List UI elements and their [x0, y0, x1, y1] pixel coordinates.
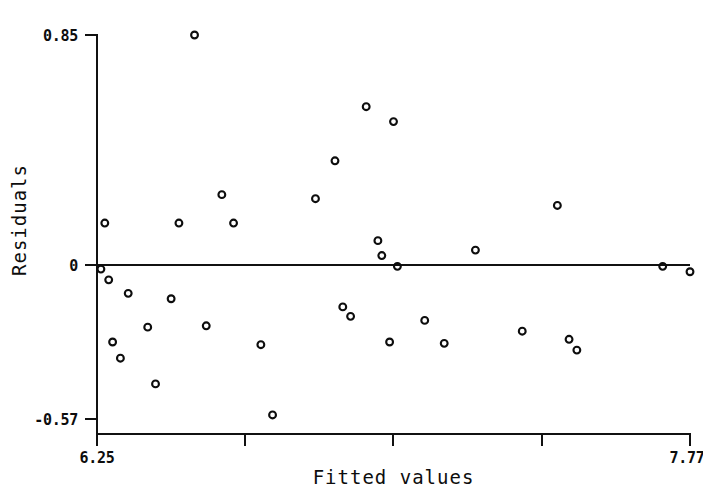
- data-point: [363, 103, 370, 110]
- data-point: [519, 328, 526, 335]
- data-point: [98, 266, 105, 273]
- data-point: [390, 118, 397, 125]
- data-point: [687, 268, 694, 275]
- data-point: [117, 355, 124, 362]
- data-point: [144, 324, 151, 331]
- data-point: [339, 303, 346, 310]
- y-axis-title-text: Residuals: [8, 164, 30, 276]
- data-points-layer: [98, 32, 694, 419]
- data-point: [125, 290, 132, 297]
- data-point: [230, 220, 237, 227]
- data-point: [472, 247, 479, 254]
- data-point: [332, 157, 339, 164]
- data-point: [203, 322, 210, 329]
- x-axis-title: Fitted values: [97, 466, 690, 488]
- data-point: [191, 32, 198, 39]
- data-point: [573, 347, 580, 354]
- x-tick-label-left: 6.25: [80, 449, 115, 467]
- data-point: [257, 341, 264, 348]
- data-point: [659, 263, 666, 270]
- data-point: [566, 336, 573, 343]
- y-tick-label-top: 0.85: [43, 27, 78, 45]
- data-point: [394, 263, 401, 270]
- data-point: [374, 237, 381, 244]
- x-axis-title-text: Fitted values: [313, 466, 475, 488]
- data-point: [105, 276, 112, 283]
- data-point: [269, 412, 276, 419]
- y-axis-title: Residuals: [2, 0, 36, 440]
- data-point: [152, 380, 159, 387]
- data-point: [421, 317, 428, 324]
- data-point: [347, 313, 354, 320]
- data-point: [168, 295, 175, 302]
- data-point: [441, 340, 448, 347]
- scatter-plot-canvas: 0.85 0 -0.57 6.25 7.77: [0, 0, 703, 501]
- data-point: [101, 220, 108, 227]
- data-point: [378, 252, 385, 259]
- data-point: [312, 195, 319, 202]
- data-point: [109, 339, 116, 346]
- data-point: [218, 191, 225, 198]
- data-point: [554, 202, 561, 209]
- x-tick-label-right: 7.77: [670, 449, 703, 467]
- residual-plot-figure: 0.85 0 -0.57 6.25 7.77 Residuals Fitted …: [0, 0, 703, 501]
- y-tick-label-bottom: -0.57: [34, 411, 78, 429]
- y-tick-label-zero: 0: [69, 257, 78, 275]
- data-point: [176, 220, 183, 227]
- data-point: [386, 339, 393, 346]
